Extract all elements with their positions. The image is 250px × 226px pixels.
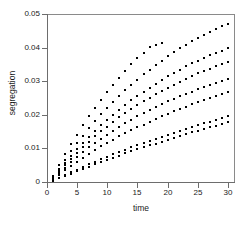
data-point — [215, 52, 217, 54]
data-point — [100, 158, 102, 160]
data-point — [88, 136, 90, 138]
data-point — [197, 88, 199, 90]
data-point — [82, 146, 84, 148]
data-point — [94, 142, 96, 144]
y-tick — [42, 14, 47, 15]
data-point — [155, 93, 157, 95]
data-point — [161, 115, 163, 117]
data-point — [179, 81, 181, 83]
data-point — [179, 95, 181, 97]
data-point — [215, 119, 217, 121]
data-point — [185, 44, 187, 46]
data-point — [130, 129, 132, 131]
data-point — [100, 161, 102, 163]
data-point — [197, 124, 199, 126]
data-point — [161, 103, 163, 105]
data-point — [143, 73, 145, 75]
data-point — [221, 50, 223, 52]
data-point — [76, 134, 78, 136]
data-point — [215, 95, 217, 97]
data-point — [185, 78, 187, 80]
data-point — [70, 143, 72, 145]
data-point — [173, 51, 175, 53]
data-point — [161, 42, 163, 44]
data-point — [88, 166, 90, 168]
data-point — [112, 153, 114, 155]
data-point — [136, 144, 138, 146]
data-point — [191, 40, 193, 42]
data-point — [209, 31, 211, 33]
data-point — [136, 115, 138, 117]
data-point — [185, 65, 187, 67]
y-tick — [42, 148, 47, 149]
data-point — [143, 142, 145, 144]
data-point — [149, 87, 151, 89]
data-point — [221, 63, 223, 65]
x-tick-label: 10 — [96, 189, 118, 197]
data-point — [167, 55, 169, 57]
plot-frame-right — [234, 14, 235, 183]
data-point — [100, 99, 102, 101]
data-point — [94, 163, 96, 165]
data-point — [155, 106, 157, 108]
data-point — [227, 115, 229, 117]
data-point — [227, 61, 229, 63]
data-point — [70, 155, 72, 157]
data-point — [112, 114, 114, 116]
data-point — [173, 84, 175, 86]
data-point — [227, 91, 229, 93]
data-point — [215, 65, 217, 67]
x-tick-label: 20 — [157, 189, 179, 197]
data-point — [167, 113, 169, 115]
data-point — [130, 150, 132, 152]
data-point — [136, 79, 138, 81]
data-point — [191, 103, 193, 105]
data-point — [203, 99, 205, 101]
data-point — [143, 91, 145, 93]
data-point — [94, 149, 96, 151]
data-point — [203, 128, 205, 130]
data-point — [197, 72, 199, 74]
data-point — [130, 146, 132, 148]
data-point — [221, 123, 223, 125]
data-point — [167, 75, 169, 77]
data-point — [191, 62, 193, 64]
data-point — [118, 77, 120, 79]
data-point — [118, 151, 120, 153]
data-point — [221, 80, 223, 82]
data-point — [64, 167, 66, 169]
data-point — [143, 146, 145, 148]
data-point — [215, 125, 217, 127]
data-point — [100, 145, 102, 147]
data-point — [106, 91, 108, 93]
data-point — [197, 37, 199, 39]
data-point — [118, 135, 120, 137]
data-point — [82, 135, 84, 137]
data-point — [149, 121, 151, 123]
data-point — [191, 126, 193, 128]
data-point — [94, 135, 96, 137]
data-point — [215, 28, 217, 30]
data-point — [76, 170, 78, 172]
data-point — [82, 124, 84, 126]
data-point — [149, 109, 151, 111]
data-point — [82, 151, 84, 153]
data-point — [179, 47, 181, 49]
data-point — [64, 175, 66, 177]
data-point — [179, 108, 181, 110]
data-point — [64, 169, 66, 171]
data-point — [64, 153, 66, 155]
data-point — [185, 93, 187, 95]
data-point — [155, 83, 157, 85]
data-point — [173, 110, 175, 112]
data-point — [209, 84, 211, 86]
data-point — [118, 116, 120, 118]
data-point — [106, 126, 108, 128]
data-point — [100, 113, 102, 115]
data-point — [155, 64, 157, 66]
data-point — [106, 159, 108, 161]
x-tick-label: 25 — [187, 189, 209, 197]
data-point — [94, 130, 96, 132]
data-point — [130, 84, 132, 86]
plot-frame-top — [47, 14, 235, 15]
